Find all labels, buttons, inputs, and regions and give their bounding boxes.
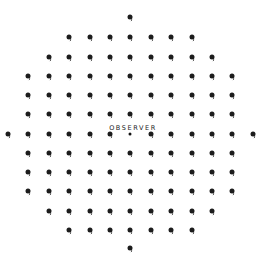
observer-dot-lattice-diagram: OBSERVER: [0, 0, 267, 261]
lattice-dot: [108, 228, 113, 233]
lattice-dot: [67, 35, 72, 40]
lattice-dot: [67, 74, 72, 79]
lattice-dot: [108, 55, 113, 60]
lattice-dot: [87, 55, 92, 60]
lattice-dot: [189, 132, 194, 137]
lattice-dot: [67, 151, 72, 156]
lattice-dot: [67, 132, 72, 137]
lattice-dot: [169, 132, 174, 137]
lattice-dot: [46, 189, 51, 194]
lattice-dot: [148, 93, 153, 98]
lattice-dot: [26, 189, 31, 194]
lattice-dot: [210, 93, 215, 98]
lattice-dot: [26, 170, 31, 175]
lattice-dot: [169, 74, 174, 79]
lattice-dot: [108, 112, 113, 117]
lattice-dot: [87, 132, 92, 137]
lattice-dot: [169, 35, 174, 40]
lattice-dot: [189, 74, 194, 79]
lattice-dot: [210, 132, 215, 137]
lattice-dot: [26, 74, 31, 79]
lattice-dot: [87, 35, 92, 40]
lattice-dot: [169, 228, 174, 233]
lattice-dot: [128, 228, 133, 233]
lattice-dot: [148, 209, 153, 214]
lattice-dot: [128, 15, 133, 20]
lattice-dot: [108, 132, 113, 137]
lattice-dot: [46, 132, 51, 137]
lattice-dot: [26, 93, 31, 98]
lattice-dot: [67, 55, 72, 60]
lattice-dot: [148, 55, 153, 60]
lattice-dot: [128, 55, 133, 60]
lattice-dot: [46, 55, 51, 60]
lattice-dot: [6, 132, 11, 137]
lattice-dot: [230, 74, 235, 79]
lattice-dot: [189, 170, 194, 175]
lattice-dot: [26, 112, 31, 117]
lattice-dot: [169, 209, 174, 214]
lattice-dot: [108, 151, 113, 156]
lattice-dot: [108, 209, 113, 214]
lattice-dot: [189, 35, 194, 40]
lattice-dot: [148, 74, 153, 79]
lattice-dot: [128, 189, 133, 194]
lattice-dot: [67, 209, 72, 214]
lattice-dot: [230, 132, 235, 137]
lattice-dot: [189, 55, 194, 60]
lattice-dot: [87, 189, 92, 194]
lattice-dot: [128, 246, 133, 251]
lattice-dot: [189, 209, 194, 214]
lattice-dot: [67, 228, 72, 233]
lattice-dot: [148, 189, 153, 194]
lattice-dot: [230, 112, 235, 117]
lattice-dot: [250, 132, 255, 137]
lattice-dot: [128, 151, 133, 156]
lattice-dot: [108, 35, 113, 40]
lattice-dot: [26, 132, 31, 137]
lattice-dot: [230, 151, 235, 156]
lattice-dot: [128, 74, 133, 79]
lattice-dot: [230, 189, 235, 194]
lattice-dot: [108, 170, 113, 175]
lattice-dot: [148, 132, 153, 137]
lattice-dot: [87, 228, 92, 233]
lattice-dot: [46, 209, 51, 214]
lattice-dot: [210, 189, 215, 194]
lattice-dot: [46, 170, 51, 175]
lattice-dot: [128, 209, 133, 214]
lattice-dot: [148, 228, 153, 233]
lattice-dot: [169, 55, 174, 60]
lattice-dot: [189, 93, 194, 98]
lattice-dot: [210, 74, 215, 79]
lattice-dot: [148, 151, 153, 156]
lattice-dot: [230, 170, 235, 175]
lattice-dot: [210, 170, 215, 175]
lattice-dot: [67, 112, 72, 117]
lattice-dot: [189, 112, 194, 117]
lattice-dot: [169, 151, 174, 156]
lattice-dot: [67, 189, 72, 194]
lattice-dot: [148, 35, 153, 40]
lattice-dot: [87, 209, 92, 214]
lattice-dot: [87, 151, 92, 156]
lattice-dot: [46, 93, 51, 98]
lattice-dot: [87, 170, 92, 175]
lattice-dot: [189, 189, 194, 194]
lattice-dot: [46, 151, 51, 156]
lattice-dot: [169, 112, 174, 117]
lattice-dot: [210, 55, 215, 60]
lattice-dot: [148, 112, 153, 117]
lattice-dot: [108, 189, 113, 194]
lattice-dot: [67, 170, 72, 175]
lattice-dot: [108, 93, 113, 98]
lattice-dot: [169, 170, 174, 175]
lattice-dot: [210, 209, 215, 214]
lattice-dot: [169, 93, 174, 98]
lattice-dot: [189, 151, 194, 156]
lattice-dot: [87, 112, 92, 117]
lattice-dot: [169, 189, 174, 194]
lattice-dot: [210, 112, 215, 117]
lattice-dot: [230, 93, 235, 98]
lattice-dot: [46, 112, 51, 117]
